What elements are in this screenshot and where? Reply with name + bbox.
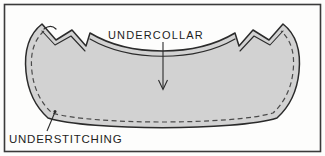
undercollar-illustration: UNDERCOLLAR UNDERSTITCHING: [0, 0, 325, 156]
understitching-label: UNDERSTITCHING: [9, 133, 122, 145]
undercollar-label: UNDERCOLLAR: [108, 29, 204, 41]
illustration-canvas: UNDERCOLLAR UNDERSTITCHING: [0, 0, 325, 156]
understitching-leader-dot: [54, 110, 57, 113]
